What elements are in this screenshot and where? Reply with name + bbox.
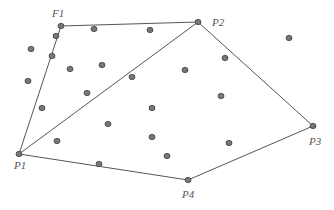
- point: [222, 55, 228, 60]
- hull-edge-p3-p4: [188, 126, 313, 180]
- point-p2: [195, 19, 201, 24]
- hull-edge-f1-p2: [61, 22, 198, 26]
- point: [28, 46, 34, 51]
- point-p4: [185, 177, 191, 182]
- point: [226, 140, 232, 145]
- point: [218, 93, 224, 98]
- point: [286, 35, 292, 40]
- label-p4: P4: [182, 189, 194, 200]
- point: [84, 90, 90, 95]
- point: [149, 105, 155, 110]
- point: [149, 134, 155, 139]
- point: [129, 74, 135, 79]
- point: [99, 62, 105, 67]
- diagram-svg: [0, 0, 334, 210]
- point: [39, 105, 45, 110]
- point-p1: [16, 151, 22, 156]
- point: [53, 33, 59, 38]
- point: [67, 66, 73, 71]
- point: [25, 78, 31, 83]
- point: [147, 27, 153, 32]
- point: [54, 138, 60, 143]
- label-p2: P2: [212, 17, 224, 28]
- point: [182, 67, 188, 72]
- hull-edge-p4-p1: [19, 154, 188, 180]
- point: [105, 121, 111, 126]
- point-p3: [310, 123, 316, 128]
- point: [91, 26, 97, 31]
- point: [164, 153, 170, 158]
- label-p3: P3: [309, 136, 321, 147]
- point-f1: [58, 23, 64, 28]
- hull-edge-p1-f1: [19, 26, 61, 154]
- hull-edge-p1-p2: [19, 22, 198, 154]
- convex-hull-diagram: F1P2P3P4P1: [0, 0, 334, 210]
- point: [96, 161, 102, 166]
- hull-edge-p2-p3: [198, 22, 313, 126]
- point: [49, 53, 55, 58]
- label-p1: P1: [14, 160, 26, 171]
- label-f1: F1: [52, 8, 64, 19]
